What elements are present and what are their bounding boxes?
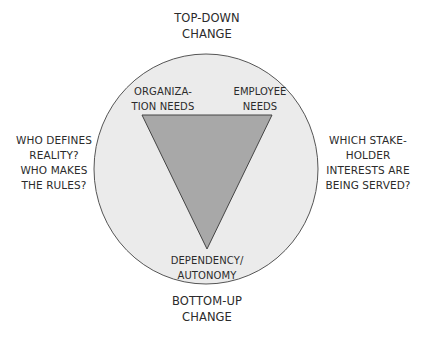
top-label-line-2: CHANGE xyxy=(157,26,257,42)
employee-needs-line-2: NEEDS xyxy=(224,100,296,115)
left-label-line-2: REALITY? xyxy=(10,148,98,163)
employee-needs-line-1: EMPLOYEE xyxy=(224,85,296,100)
top-down-change-label: TOP-DOWN CHANGE xyxy=(157,10,257,42)
dependency-line-2: AUTONOMY xyxy=(162,269,252,284)
left-label-line-1: WHO DEFINES xyxy=(10,133,98,148)
top-label-line-1: TOP-DOWN xyxy=(157,10,257,26)
dependency-autonomy-label: DEPENDENCY/ AUTONOMY xyxy=(162,254,252,283)
organization-needs-label: ORGANIZA- TION NEEDS xyxy=(127,85,199,114)
right-label-line-4: BEING SERVED? xyxy=(322,178,414,193)
right-label-line-2: HOLDER xyxy=(322,148,414,163)
stakeholder-change-diagram: TOP-DOWN CHANGE ORGANIZA- TION NEEDS EMP… xyxy=(0,0,428,338)
org-needs-line-1: ORGANIZA- xyxy=(127,85,199,100)
bottom-label-line-1: BOTTOM-UP xyxy=(157,293,257,309)
who-defines-reality-label: WHO DEFINES REALITY? WHO MAKES THE RULES… xyxy=(10,133,98,193)
employee-needs-label: EMPLOYEE NEEDS xyxy=(224,85,296,114)
left-label-line-3: WHO MAKES xyxy=(10,163,98,178)
right-label-line-3: INTERESTS ARE xyxy=(322,163,414,178)
stakeholder-interests-label: WHICH STAKE- HOLDER INTERESTS ARE BEING … xyxy=(322,133,414,193)
dependency-line-1: DEPENDENCY/ xyxy=(162,254,252,269)
org-needs-line-2: TION NEEDS xyxy=(127,100,199,115)
left-label-line-4: THE RULES? xyxy=(10,178,98,193)
bottom-label-line-2: CHANGE xyxy=(157,309,257,325)
right-label-line-1: WHICH STAKE- xyxy=(322,133,414,148)
bottom-up-change-label: BOTTOM-UP CHANGE xyxy=(157,293,257,325)
